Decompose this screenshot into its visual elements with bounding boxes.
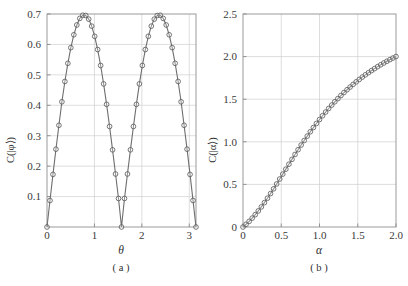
- data-point: [293, 152, 298, 157]
- plot-b-svg: 00.51.01.52.000.51.01.52.02.5 α C(|α⟩) (…: [204, 0, 408, 286]
- plot-a-ytick-4: 0.5: [27, 69, 41, 81]
- data-point: [146, 34, 151, 39]
- plot-b-xtick-3: 1.5: [351, 229, 365, 241]
- plot-a-xtick-0: 0: [44, 229, 50, 241]
- panel-a: 01230.10.20.30.40.50.60.7 θ C(|φ⟩) ( a ): [0, 0, 204, 286]
- plot-a-caption: ( a ): [113, 262, 130, 274]
- plot-a-ytick-1: 0.2: [27, 160, 41, 172]
- data-point: [265, 196, 270, 201]
- data-point: [140, 63, 145, 68]
- plot-a-xlabel: θ: [118, 244, 124, 256]
- plot-b-xtick-1: 0.5: [274, 229, 288, 241]
- data-point: [125, 172, 130, 177]
- data-point: [134, 102, 139, 107]
- data-point: [71, 32, 76, 37]
- plot-b-ytick-0: 0: [232, 221, 238, 233]
- data-point: [149, 24, 154, 29]
- data-point: [268, 191, 273, 196]
- data-point: [54, 147, 59, 152]
- data-point: [137, 82, 142, 87]
- data-point: [66, 61, 71, 66]
- data-point: [271, 186, 276, 191]
- plot-b-ytick-2: 1.0: [223, 136, 237, 148]
- data-point: [131, 124, 136, 129]
- data-point: [74, 23, 79, 28]
- data-point: [290, 157, 295, 162]
- plot-b-caption: ( b ): [310, 262, 328, 274]
- data-point: [185, 147, 190, 152]
- data-point: [51, 172, 56, 177]
- plot-b-ytick-4: 2.0: [223, 50, 237, 62]
- plot-a-ytick-2: 0.3: [27, 130, 41, 142]
- data-point: [122, 196, 127, 201]
- data-point: [262, 200, 267, 205]
- data-point: [394, 54, 399, 59]
- plot-a-xtick-1: 1: [92, 229, 98, 241]
- data-point: [89, 24, 94, 29]
- data-point: [296, 147, 301, 152]
- data-point: [45, 225, 50, 230]
- plot-a-ytick-6: 0.7: [27, 8, 41, 20]
- data-point: [170, 45, 175, 50]
- plot-b-ticklabels: 00.51.01.52.000.51.01.52.02.5: [223, 8, 403, 241]
- data-point: [280, 172, 285, 177]
- data-point: [110, 147, 115, 152]
- data-point: [274, 182, 279, 187]
- data-point: [302, 138, 307, 143]
- plot-b-ytick-3: 1.5: [223, 93, 237, 105]
- data-point: [104, 102, 109, 107]
- data-point: [98, 63, 103, 68]
- plot-b-ylabel: C(|α⟩): [207, 137, 219, 163]
- data-point: [167, 32, 172, 37]
- plot-b-xtick-0: 0: [240, 229, 246, 241]
- data-point: [287, 162, 292, 167]
- plot-a-svg: 01230.10.20.30.40.50.60.7 θ C(|φ⟩) ( a ): [0, 0, 204, 286]
- data-point: [283, 167, 288, 172]
- data-point: [191, 198, 196, 203]
- plot-b-xtick-2: 1.0: [313, 229, 327, 241]
- data-point: [57, 123, 62, 128]
- data-point: [63, 79, 68, 84]
- plot-a-ytick-0: 0.1: [27, 190, 41, 202]
- data-point: [101, 82, 106, 87]
- plot-a-ylabel: C(|φ⟩): [5, 136, 17, 163]
- data-point: [68, 45, 73, 50]
- data-point: [60, 99, 65, 104]
- plot-b-xlabel: α: [316, 244, 323, 256]
- data-point: [259, 205, 264, 210]
- data-point: [176, 79, 181, 84]
- data-point: [311, 125, 316, 130]
- data-point: [188, 172, 193, 177]
- plot-a-xtick-2: 2: [139, 229, 145, 241]
- data-point: [179, 99, 184, 104]
- data-point: [173, 61, 178, 66]
- data-point: [161, 16, 166, 21]
- data-point: [86, 17, 91, 22]
- data-point: [305, 134, 310, 139]
- data-point: [194, 225, 199, 230]
- data-point: [164, 23, 169, 28]
- plot-a-ytick-3: 0.4: [27, 99, 41, 111]
- data-point: [308, 129, 313, 134]
- data-point: [113, 172, 118, 177]
- plot-b-ytick-1: 0.5: [223, 178, 237, 190]
- data-point: [116, 196, 121, 201]
- data-point: [128, 147, 133, 152]
- data-point: [299, 143, 304, 148]
- figure-container: 01230.10.20.30.40.50.60.7 θ C(|φ⟩) ( a )…: [0, 0, 408, 286]
- plot-b-xtick-4: 2.0: [389, 229, 403, 241]
- data-point: [182, 123, 187, 128]
- data-point: [277, 177, 282, 182]
- data-point: [48, 198, 53, 203]
- panel-b: 00.51.01.52.000.51.01.52.02.5 α C(|α⟩) (…: [204, 0, 408, 286]
- plot-a-xtick-3: 3: [187, 229, 193, 241]
- data-point: [143, 47, 148, 52]
- plot-a-ytick-5: 0.6: [27, 38, 41, 50]
- plot-b-ytick-5: 2.5: [223, 8, 237, 20]
- data-point: [119, 225, 124, 230]
- data-point: [107, 124, 112, 129]
- data-point: [95, 47, 100, 52]
- data-point: [92, 34, 97, 39]
